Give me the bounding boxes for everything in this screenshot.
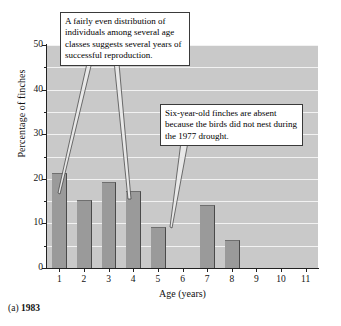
x-tick-4 [133, 268, 134, 272]
x-tick-10 [281, 268, 282, 272]
y-tick-label-50: 50 [21, 40, 43, 50]
caption-year: 1983 [21, 303, 40, 313]
bar-age-7 [200, 205, 215, 268]
x-tick-label-6: 6 [171, 275, 195, 285]
x-tick-label-1: 1 [47, 275, 71, 285]
y-tick-label-40: 40 [21, 85, 43, 95]
x-tick-9 [256, 268, 257, 272]
y-tick-label-30: 30 [21, 129, 43, 139]
y-axis-title: Percentage of finches [16, 49, 27, 179]
y-tick-minor-45 [44, 67, 47, 68]
bar-age-4 [126, 191, 141, 268]
x-tick-6 [183, 268, 184, 272]
x-tick-8 [232, 268, 233, 272]
x-tick-7 [207, 268, 208, 272]
y-tick-minor-35 [44, 112, 47, 113]
gridline-45 [47, 67, 318, 68]
x-tick-label-8: 8 [220, 275, 244, 285]
gridline-25 [47, 157, 318, 158]
x-tick-label-11: 11 [294, 275, 318, 285]
x-tick-1 [59, 268, 60, 272]
y-tick-minor-15 [44, 201, 47, 202]
x-tick-5 [158, 268, 159, 272]
x-axis-title: Age (years) [47, 288, 318, 299]
x-tick-label-5: 5 [146, 275, 170, 285]
y-tick-label-20: 20 [21, 174, 43, 184]
y-tick-label-0: 0 [21, 263, 43, 273]
caption-label: (a) [8, 303, 19, 313]
x-tick-2 [84, 268, 85, 272]
x-tick-label-7: 7 [195, 275, 219, 285]
callout-drought: Six-year-old finches are absent because … [160, 104, 303, 146]
bar-age-2 [77, 200, 92, 268]
x-tick-label-2: 2 [72, 275, 96, 285]
gridline-40 [47, 90, 318, 91]
x-tick-label-3: 3 [97, 275, 121, 285]
x-tick-label-10: 10 [269, 275, 293, 285]
x-tick-label-9: 9 [244, 275, 268, 285]
bar-age-3 [102, 182, 117, 268]
finch-age-distribution-figure: Percentage of finches Age (years) 010203… [0, 0, 341, 326]
bar-age-5 [151, 227, 166, 268]
bar-age-1 [52, 173, 67, 268]
bar-age-8 [225, 240, 240, 268]
y-tick-minor-25 [44, 157, 47, 158]
figure-caption: (a) 1983 [8, 303, 40, 313]
callout-reproduction: A fairly even distribution of individual… [60, 12, 190, 66]
x-tick-11 [306, 268, 307, 272]
y-tick-minor-5 [44, 246, 47, 247]
y-tick-label-10: 10 [21, 218, 43, 228]
x-tick-label-4: 4 [121, 275, 145, 285]
x-tick-3 [109, 268, 110, 272]
gridline-20 [47, 179, 318, 180]
